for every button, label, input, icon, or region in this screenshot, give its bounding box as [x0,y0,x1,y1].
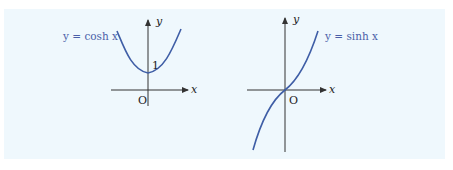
cosh-curve [117,29,181,73]
sinh-graph [247,18,326,152]
sinh-x-axis-label: x [329,84,335,95]
cosh-function-label: y = cosh x [63,31,118,42]
cosh-graph [111,20,188,106]
cosh-origin-label: O [138,95,147,106]
cosh-y-axis-label: y [156,16,162,27]
sinh-origin-label: O [289,95,298,106]
cosh-x-axis-label: x [191,84,197,95]
cosh-intercept-label: 1 [152,60,159,71]
sinh-function-label: y = sinh x [325,31,378,42]
sinh-y-axis-label: y [293,14,299,25]
graphs-svg [0,0,453,170]
